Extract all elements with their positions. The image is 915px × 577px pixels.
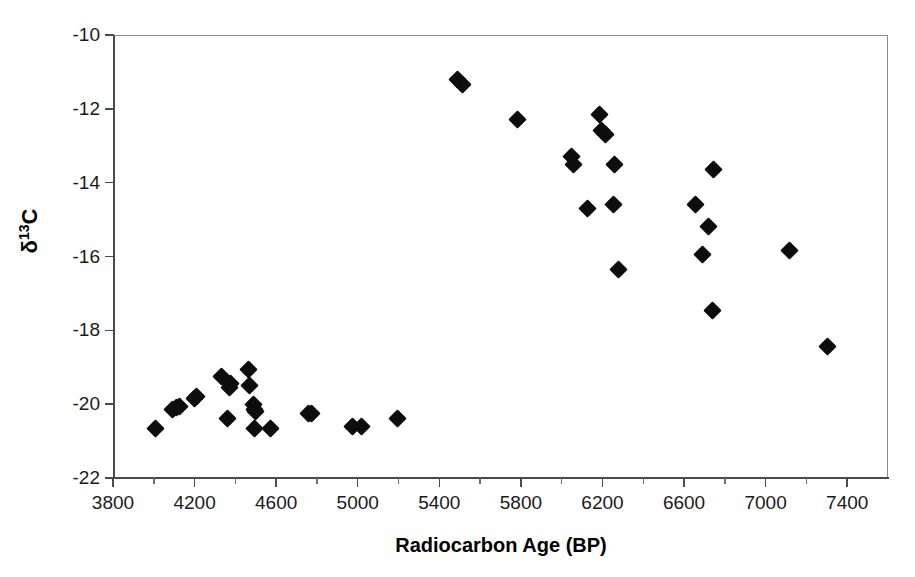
x-axis-tick bbox=[765, 478, 767, 487]
x-axis-tick bbox=[683, 478, 685, 487]
y-axis-tick-label-wrap: -14 bbox=[36, 173, 100, 193]
x-axis-tick bbox=[112, 478, 114, 487]
x-axis-title: Radiocarbon Age (BP) bbox=[113, 534, 889, 557]
x-axis-tick bbox=[602, 478, 604, 487]
x-axis-minor-tick bbox=[643, 478, 645, 484]
x-axis-tick bbox=[275, 478, 277, 487]
x-axis-tick-label: 4600 bbox=[231, 492, 321, 514]
y-axis-tick bbox=[105, 330, 114, 332]
x-axis-minor-tick bbox=[724, 478, 726, 484]
x-axis-minor-tick bbox=[153, 478, 155, 484]
x-axis-tick-label: 7000 bbox=[721, 492, 811, 514]
y-axis-tick-label: -14 bbox=[44, 173, 100, 192]
y-axis-tick bbox=[105, 403, 114, 405]
y-axis-tick-label: -12 bbox=[44, 99, 100, 118]
plot-area-frame bbox=[113, 35, 888, 478]
x-axis-minor-tick bbox=[561, 478, 563, 484]
y-axis-tick-label-wrap: -22 bbox=[36, 468, 100, 488]
y-axis-title-element: C bbox=[17, 209, 42, 225]
x-axis-tick-label: 5000 bbox=[313, 492, 403, 514]
y-axis-tick-label-wrap: -12 bbox=[36, 99, 100, 119]
x-axis-tick-label: 5400 bbox=[394, 492, 484, 514]
x-axis-tick-label: 4200 bbox=[150, 492, 240, 514]
x-axis-tick-label: 7400 bbox=[802, 492, 892, 514]
x-axis-tick-label: 6600 bbox=[639, 492, 729, 514]
y-axis-tick-label-wrap: -16 bbox=[36, 247, 100, 267]
y-axis-tick bbox=[105, 182, 114, 184]
x-axis-tick bbox=[194, 478, 196, 487]
x-axis-tick-label: 6200 bbox=[557, 492, 647, 514]
y-axis-tick-label-wrap: -18 bbox=[36, 320, 100, 340]
x-axis-tick bbox=[357, 478, 359, 487]
y-axis-tick bbox=[105, 256, 114, 258]
x-axis-minor-tick bbox=[235, 478, 237, 484]
x-axis-tick-label: 5800 bbox=[476, 492, 566, 514]
x-axis-tick-label: 3800 bbox=[68, 492, 158, 514]
y-axis-tick-label: -20 bbox=[44, 394, 100, 413]
y-axis-title: δ13C bbox=[17, 161, 43, 301]
x-axis-minor-tick bbox=[316, 478, 318, 484]
y-axis-tick-label: -10 bbox=[44, 25, 100, 44]
y-axis-tick-label: -16 bbox=[44, 247, 100, 266]
y-axis-tick-label: -18 bbox=[44, 320, 100, 339]
x-axis-tick bbox=[520, 478, 522, 487]
y-axis-tick-label: -22 bbox=[44, 468, 100, 487]
y-axis-tick-label-wrap: -10 bbox=[36, 25, 100, 45]
y-axis-tick bbox=[105, 34, 114, 36]
y-axis-title-delta: δ bbox=[17, 240, 42, 253]
y-axis-tick bbox=[105, 108, 114, 110]
x-axis-tick bbox=[439, 478, 441, 487]
x-axis-tick bbox=[846, 478, 848, 487]
y-axis-tick-label-wrap: -20 bbox=[36, 394, 100, 414]
x-axis-minor-tick bbox=[479, 478, 481, 484]
y-axis-title-superscript: 13 bbox=[16, 224, 32, 240]
scatter-chart-figure: -10-12-14-16-18-20-223800420046005000540… bbox=[0, 0, 915, 577]
x-axis-minor-tick bbox=[806, 478, 808, 484]
x-axis-line bbox=[113, 477, 889, 479]
x-axis-minor-tick bbox=[398, 478, 400, 484]
